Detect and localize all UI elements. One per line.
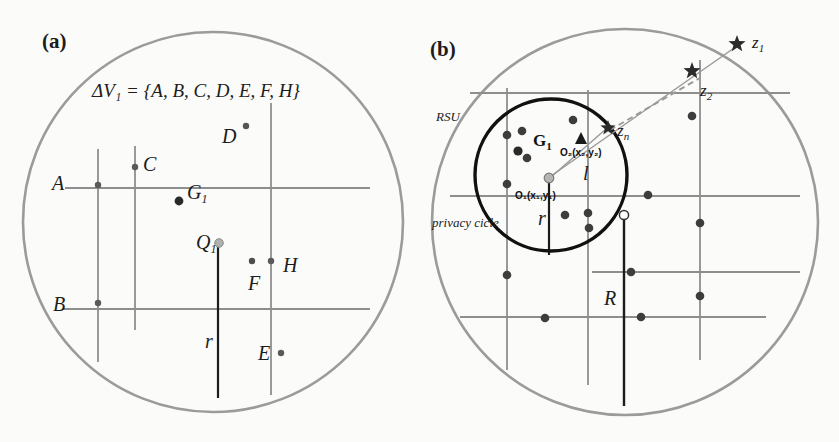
vehicle-A-label: A [50,172,65,194]
vehicle-dot-16 [637,313,646,322]
vehicle-H-label: H [282,254,299,276]
vehicle-dot-10 [688,112,697,121]
star-z1-subscript: 1 [759,42,765,54]
vehicle-F-dot [249,258,255,264]
vehicle-D-label: D [221,125,237,147]
vehicle-dot-7 [584,209,593,218]
panel-a-tag: (a) [42,29,67,53]
vehicle-dot-2 [518,127,527,136]
vehicle-dot-9 [644,191,653,200]
origin-O2-label: O₂(x₂,y₂) [560,147,602,158]
group-center-G1-dot [175,197,184,206]
star-z2-subscript: 2 [707,90,713,102]
delta-v1-set-formula: ΔV₁ = {A, B, C, D, E, F, H} [91,80,300,101]
group-label-G1-subscript: 1 [546,140,552,152]
diagram-canvas: (a) ΔV₁ = {A, B, C, D, E, F, H} ACDBFHE … [0,0,839,442]
vehicle-B-label: B [53,293,65,315]
vehicle-dot-8 [585,224,594,233]
vehicle-E-dot [278,350,284,356]
vehicle-dot-14 [696,292,705,301]
vehicle-dot-11 [696,219,705,228]
panel-b-tag: (b) [430,37,456,61]
vehicle-dot-4 [523,154,532,163]
vehicle-dot-1 [503,131,512,140]
vehicle-dot-5 [503,180,512,189]
vehicle-C-dot [132,164,138,170]
vehicle-C-label: C [143,153,157,175]
privacy-radius-label-r: r [538,207,546,229]
vehicle-H-dot [268,258,274,264]
star-zn-subscript: n [624,130,630,142]
group-dot-G1 [513,146,522,155]
vehicle-A-dot [95,182,101,188]
figure-background [0,0,839,442]
vehicle-dot-15 [541,314,550,323]
vehicle-dot-13 [627,268,636,277]
privacy-circle-label: privacy cicle [431,215,499,230]
vehicle-F-label: F [247,272,261,294]
vehicle-E-label: E [257,342,270,364]
vehicle-dot-12 [503,271,512,280]
origin-O1-dot [544,173,554,183]
query-point-Q1-subscript: 1 [210,242,216,256]
rsu-label: RSU [435,109,461,124]
figure-container: (a) ΔV₁ = {A, B, C, D, E, F, H} ACDBFHE … [0,0,839,442]
distance-label-l: l [583,162,589,184]
vehicle-B-dot [95,300,101,306]
vehicle-dot-6 [561,211,570,220]
rsu-radius-label-R: R [603,287,616,309]
origin-O1-label: O₁(x₁,y₁) [515,190,556,201]
radius-label-r: r [205,330,213,352]
group-center-G1-subscript: 1 [201,192,207,206]
open-vehicle-dot [619,210,628,219]
vehicle-D-dot [243,123,249,129]
vehicle-dot-3 [569,116,578,125]
